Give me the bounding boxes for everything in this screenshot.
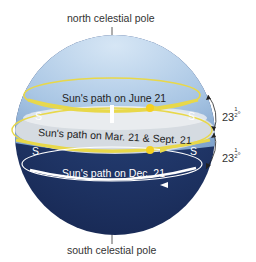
south-right-lower: S bbox=[190, 145, 197, 157]
south-right-upper: S bbox=[188, 110, 195, 122]
south-pole-label: south celestial pole bbox=[67, 244, 156, 256]
sun-icon bbox=[146, 146, 154, 154]
south-left-lower: S bbox=[32, 145, 39, 157]
south-left-upper: S bbox=[35, 110, 42, 122]
june-path-label: Sun's path on June 21 bbox=[62, 92, 166, 104]
angle-label-upper: 2312° bbox=[222, 106, 241, 123]
dec-path-label: Sun's path on Dec. 21 bbox=[62, 167, 165, 179]
observer-figure bbox=[110, 105, 114, 123]
angle-label-lower: 2312° bbox=[222, 147, 241, 164]
sun-icon bbox=[146, 104, 154, 112]
